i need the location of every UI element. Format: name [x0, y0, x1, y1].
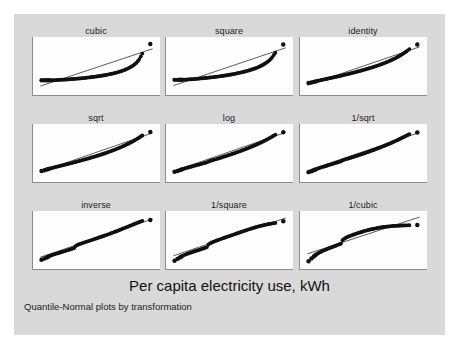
plot-area — [165, 124, 293, 183]
data-points — [172, 42, 285, 82]
panel-title: inverse — [32, 200, 160, 211]
plot-svg — [33, 124, 160, 182]
figure-root: cubicsquareidentitysqrtlog1/sqrtinverse1… — [0, 0, 459, 348]
panel-title: log — [165, 113, 293, 124]
plot-area — [32, 211, 160, 270]
qq-panel-sqrt: sqrt — [32, 113, 160, 183]
data-points — [172, 219, 285, 263]
data-points — [306, 223, 419, 264]
qq-panel-identity: identity — [299, 26, 427, 96]
plot-svg — [166, 211, 293, 269]
figure-title: Per capita electricity use, kWh — [14, 277, 445, 294]
plot-area — [299, 124, 427, 183]
plot-svg — [300, 211, 427, 269]
plot-svg — [166, 124, 293, 182]
qq-panel-1-over-cubic: 1/cubic — [299, 200, 427, 270]
plot-area — [32, 124, 160, 183]
plot-svg — [166, 37, 293, 95]
data-points — [39, 218, 152, 262]
data-points — [39, 42, 152, 83]
plot-svg — [33, 37, 160, 95]
plot-area — [299, 211, 427, 270]
panel-title: 1/sqrt — [299, 113, 427, 124]
data-points — [306, 130, 419, 174]
qq-panel-inverse: inverse — [32, 200, 160, 270]
qq-panel-cubic: cubic — [32, 26, 160, 96]
plot-area — [165, 211, 293, 270]
qq-panel-square: square — [165, 26, 293, 96]
panel-title: square — [165, 26, 293, 37]
panel-title: identity — [299, 26, 427, 37]
plot-area — [32, 37, 160, 96]
plot-svg — [300, 37, 427, 95]
panel-title: 1/cubic — [299, 200, 427, 211]
panel-title: sqrt — [32, 113, 160, 124]
panel-title: 1/square — [165, 200, 293, 211]
panel-title: cubic — [32, 26, 160, 37]
data-points — [39, 130, 152, 173]
plot-area — [165, 37, 293, 96]
qq-panel-log: log — [165, 113, 293, 183]
data-points — [306, 42, 419, 85]
figure-subtitle: Quantile-Normal plots by transformation — [24, 301, 192, 312]
qq-panel-1-over-square: 1/square — [165, 200, 293, 270]
panel-grid: cubicsquareidentitysqrtlog1/sqrtinverse1… — [14, 14, 445, 274]
figure-card: cubicsquareidentitysqrtlog1/sqrtinverse1… — [14, 14, 445, 335]
qq-panel-1-over-sqrt: 1/sqrt — [299, 113, 427, 183]
plot-area — [299, 37, 427, 96]
plot-svg — [300, 124, 427, 182]
plot-svg — [33, 211, 160, 269]
